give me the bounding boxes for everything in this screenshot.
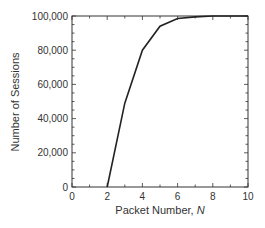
- y-tick-label: 60,000: [37, 79, 68, 90]
- x-tick-label: 8: [210, 191, 216, 202]
- x-tick-label: 6: [175, 191, 181, 202]
- x-tick-label: 0: [69, 191, 75, 202]
- y-tick-label: 20,000: [37, 147, 68, 158]
- y-tick-label: 100,000: [32, 11, 69, 22]
- y-axis-ticks: 020,00040,00060,00080,000100,000: [32, 11, 69, 193]
- y-tick-label: 0: [62, 182, 68, 193]
- plot-area: [72, 16, 248, 187]
- x-tick-label: 4: [140, 191, 146, 202]
- y-tick-label: 80,000: [37, 45, 68, 56]
- data-line: [107, 16, 248, 187]
- x-axis-label: Packet Number, N: [115, 204, 204, 216]
- y-tick-label: 40,000: [37, 113, 68, 124]
- line-chart: 020,00040,00060,00080,000100,000 0246810…: [0, 0, 265, 228]
- y-axis-label: Number of Sessions: [9, 52, 21, 152]
- x-axis-ticks: 0246810: [69, 191, 254, 202]
- x-tick-label: 10: [242, 191, 254, 202]
- x-tick-label: 2: [104, 191, 110, 202]
